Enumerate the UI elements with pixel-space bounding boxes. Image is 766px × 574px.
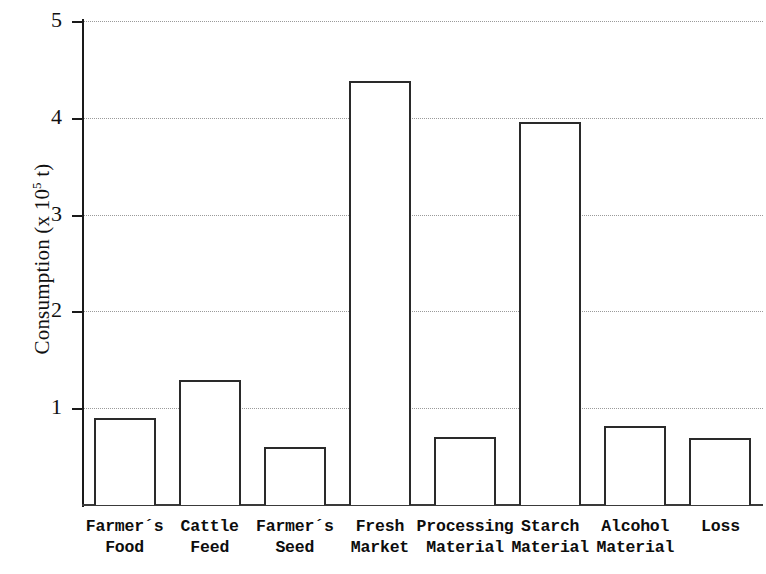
bar xyxy=(179,380,241,505)
bar xyxy=(519,122,581,505)
bar xyxy=(349,81,411,505)
y-tick-label-1: 1 xyxy=(34,396,62,418)
plot-area xyxy=(82,21,763,505)
bar xyxy=(434,437,496,505)
y-tick-label-4: 4 xyxy=(34,106,62,128)
y-axis-title: Consumption (x 105 t) xyxy=(29,129,55,389)
x-axis-label-line1: Starch xyxy=(521,517,579,536)
bar xyxy=(689,438,751,505)
x-axis-label-line1: Fresh xyxy=(356,517,405,536)
bar xyxy=(264,447,326,505)
x-axis-label-line1: Alcohol xyxy=(601,517,669,536)
x-axis-label-line2: Material xyxy=(576,537,694,558)
x-axis-category-labels: Farmer´sFoodCattleFeedFarmer´sSeedFreshM… xyxy=(0,516,766,574)
bar xyxy=(604,426,666,505)
y-tick-label-2: 2 xyxy=(34,299,62,321)
x-axis-label-line1: Loss xyxy=(701,517,740,536)
y-axis-title-suffix: t) xyxy=(30,164,54,183)
y-tick-label-5: 5 xyxy=(34,9,62,31)
consumption-bar-chart: Consumption (x 105 t) 12345 Farmer´sFood… xyxy=(0,0,766,574)
y-tick-label-3: 3 xyxy=(34,203,62,225)
x-axis-label-8: Loss xyxy=(661,516,766,537)
bar xyxy=(94,418,156,505)
y-axis-title-exponent: 5 xyxy=(29,182,44,189)
x-axis-label-line1: Cattle xyxy=(181,517,239,536)
